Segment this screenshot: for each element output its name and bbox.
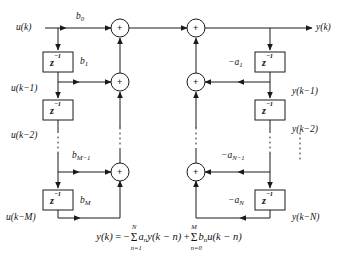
gain-label-b0: b0 — [76, 12, 84, 22]
equation-sigma-glyph-2: Σ — [191, 232, 198, 244]
signal-label-output-delay-2: y(k−2) — [292, 125, 318, 135]
gain-label-b1: b1 — [80, 57, 88, 67]
equation-plus: + — [184, 231, 190, 242]
delay-block-label-left-1: z−1 — [50, 56, 61, 68]
equation-minus: − — [124, 231, 130, 242]
delay-block-label-left-3: z−1 — [50, 194, 61, 206]
delay-block-label-left-2: z−1 — [50, 104, 61, 116]
equation-sigma-2: MΣn=0 — [191, 232, 198, 244]
gain-label-aN-1: −aN−1 — [221, 151, 245, 161]
adder-plus-mid-left: + — [117, 78, 122, 87]
equation-sigma-glyph-1: Σ — [131, 232, 138, 244]
equation-sum2-upper: M — [191, 224, 198, 231]
equation-sum2-coeff-sub: n — [204, 236, 208, 244]
equation-sigma-1: NΣn=1 — [131, 232, 138, 244]
adder-plus-top-right: + — [193, 24, 198, 33]
equation-sum2-lower: n=0 — [191, 245, 198, 252]
equation-equals: = — [115, 231, 121, 242]
signal-label-input-delay-1: u(k−1) — [11, 84, 37, 94]
equation-sum1-lower: n=1 — [131, 245, 138, 252]
equation-sum1-term: y(k − n) — [147, 231, 181, 242]
signal-label-input-delay-2: u(k−2) — [11, 131, 37, 141]
signal-label-output: y(k) — [316, 23, 331, 33]
equation-sum1-coeff: a — [138, 231, 143, 242]
gain-label-a1: −a1 — [228, 58, 243, 68]
signal-label-output-delay-1: y(k−1) — [292, 87, 318, 97]
signal-label-output-delay-N: y(k−N) — [292, 213, 320, 223]
gain-label-bM-1: bM−1 — [72, 151, 90, 161]
equation-sum1-upper: N — [131, 224, 138, 231]
gain-label-bM: bM — [80, 196, 90, 206]
delay-block-label-right-3: z−1 — [262, 194, 273, 206]
signal-label-input-delay-M: u(k−M) — [6, 213, 36, 223]
adder-plus-bottom-right: + — [193, 168, 198, 177]
delay-block-label-right-1: z−1 — [262, 56, 273, 68]
equation-sum2-coeff: b — [198, 231, 203, 242]
signal-label-input: u(k) — [16, 23, 31, 33]
adder-plus-mid-right: + — [193, 78, 198, 87]
filter-block-diagram-figure: + + + + + + z−1 z−1 z−1 z−1 z−1 z−1 u(k)… — [0, 0, 338, 272]
gain-label-aN: −aN — [228, 196, 244, 206]
difference-equation: y(k) = −NΣn=1any(k − n) +MΣn=0bnu(k − n) — [0, 231, 338, 243]
adder-plus-bottom-left: + — [117, 168, 122, 177]
equation-sum1-coeff-sub: n — [144, 236, 148, 244]
equation-sum2-term: u(k − n) — [207, 231, 242, 242]
delay-block-label-right-2: z−1 — [262, 104, 273, 116]
adder-plus-top-left: + — [117, 24, 122, 33]
equation-lhs: y(k) — [96, 231, 112, 242]
